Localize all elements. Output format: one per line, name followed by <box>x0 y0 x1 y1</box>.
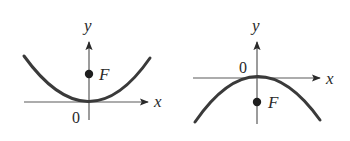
parabola-diagrams: F x y 0 F x y 0 <box>0 0 350 141</box>
focus-point <box>85 70 93 78</box>
x-axis-label: x <box>325 69 334 88</box>
focus-label: F <box>98 65 110 84</box>
focus-label: F <box>267 93 279 112</box>
figure-upward-parabola: F x y 0 <box>24 16 162 126</box>
figure-downward-parabola: F x y 0 <box>193 16 334 124</box>
focus-point <box>253 98 261 106</box>
origin-label: 0 <box>72 109 80 126</box>
y-axis-label: y <box>82 16 92 35</box>
parabola-curve <box>24 56 150 102</box>
y-axis-label: y <box>250 16 260 35</box>
origin-label: 0 <box>239 59 247 76</box>
x-axis-label: x <box>153 92 162 111</box>
